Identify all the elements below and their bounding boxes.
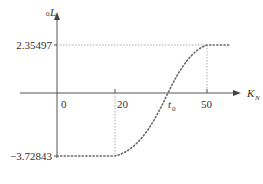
t0-sub: 0 <box>172 105 176 113</box>
x-label-sub: N <box>254 94 260 102</box>
x-label: K <box>246 87 255 99</box>
chart: 0 L K N 0 20 50 t 0 2.35497 −3.72843 <box>0 0 263 184</box>
y-high-label: 2.35497 <box>16 39 52 51</box>
y-low-label: −3.72843 <box>10 150 52 162</box>
tick-label-0: 0 <box>61 98 67 110</box>
tick-label-20: 20 <box>117 98 129 110</box>
x-axis-arrow-icon <box>233 90 241 96</box>
y-label: L <box>49 6 56 18</box>
tick-label-50: 50 <box>201 98 213 110</box>
